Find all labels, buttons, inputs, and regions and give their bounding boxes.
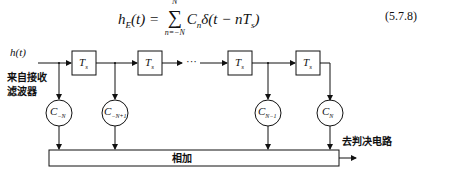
coef-label-3: CN−1 [258,105,276,119]
delay-label-4: Ts [303,56,312,71]
ellipsis: ··· [186,55,197,67]
delay-label-3: Ts [235,56,244,71]
transversal-filter-diagram [0,0,467,176]
delay-label-2: Ts [145,56,154,71]
delay-label-1: Ts [79,56,88,71]
adder-box [49,150,339,166]
output-label: 去判决电路 [342,135,392,148]
input-signal-label: h(t) [10,46,26,58]
coef-label-2: C−N+1 [104,105,126,119]
coef-label-4: CN [322,105,333,119]
adder-label: 相加 [172,152,192,165]
input-source-label-line1: 来自接收 [7,71,47,84]
coef-label-1: C−N [50,105,65,119]
input-source-label-line2: 滤波器 [7,85,37,98]
